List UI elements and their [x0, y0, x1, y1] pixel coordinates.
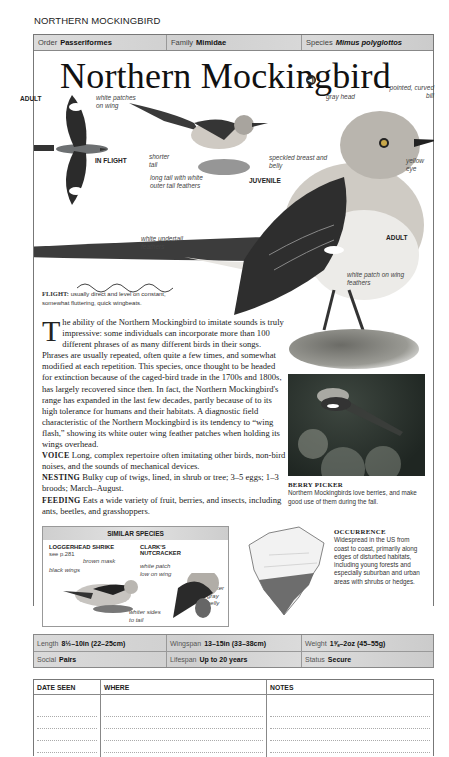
range-map	[239, 525, 334, 621]
speckled-label: speckled breast and belly	[269, 154, 329, 169]
yellow-eye-label: yellow eye	[406, 157, 436, 172]
lifespan-value: Up to 20 years	[199, 656, 247, 663]
pointed-bill-label: pointed, curved bill	[389, 84, 434, 99]
in-flight-illustration	[34, 95, 108, 205]
adult-label: ADULT	[386, 234, 408, 241]
running-head: NORTHERN MOCKINGBIRD	[34, 15, 160, 26]
white-patch-label: white patch on wing feathers	[347, 271, 407, 286]
shrike-name: LOGGERHEAD SHRIKE	[49, 544, 114, 550]
similar-species-box: SIMILAR SPECIES LOGGERHEAD SHRIKE see p.…	[42, 526, 229, 627]
gray-head-label: gray head	[326, 93, 355, 101]
lifespan-cell: LifespanUp to 20 years	[167, 652, 302, 667]
photo-caption: BERRY PICKERNorthern Mockingbirds love b…	[288, 481, 428, 506]
stats-bar: Length8½–10in (22–25cm) Wingspan13–15in …	[33, 634, 434, 668]
similar-species-illustrations	[53, 573, 223, 623]
flight-note: FLIGHT: usually direct and level on cons…	[42, 290, 182, 307]
species-value: Mimus polyglottos	[336, 38, 402, 47]
shrike-page-ref[interactable]: see p.281	[49, 551, 74, 557]
where-header: WHERE	[101, 680, 267, 694]
notes-column[interactable]	[267, 695, 433, 757]
shorter-tail-label: shorter tail	[149, 153, 179, 168]
species-account: OrderPasseriformes FamilyMimidae Species…	[33, 34, 434, 606]
order-value: Passeriformes	[60, 38, 112, 47]
berry-picker-photo	[288, 374, 425, 476]
date-seen-column[interactable]	[34, 695, 101, 757]
drop-cap: T	[42, 320, 60, 342]
where-column[interactable]	[101, 695, 267, 757]
family-cell: FamilyMimidae	[167, 35, 302, 50]
species-cell: SpeciesMimus polyglottos	[302, 35, 433, 50]
occurrence: OCCURRENCEWidespread in the US from coas…	[334, 528, 424, 586]
status-value: Secure	[328, 656, 351, 663]
taxonomy-bar: OrderPasseriformes FamilyMimidae Species…	[34, 35, 433, 51]
juvenile-label: JUVENILE	[249, 177, 281, 184]
social-cell: SocialPairs	[34, 652, 167, 667]
notes-header: NOTES	[267, 680, 433, 694]
nutcracker-name: CLARK'S NUTCRACKER	[140, 544, 180, 556]
wingspan-cell: Wingspan13–15in (33–38cm)	[167, 635, 302, 651]
social-value: Pairs	[59, 656, 76, 663]
description: The ability of the Northern Mockingbird …	[42, 317, 287, 517]
wingspan-value: 13–15in (33–38cm)	[204, 640, 266, 647]
status-cell: StatusSecure	[302, 652, 433, 667]
perch-rock	[289, 329, 419, 369]
order-cell: OrderPasseriformes	[34, 35, 167, 50]
weight-value: 1⅝–2oz (45–55g)	[330, 640, 386, 647]
long-tail-label: long tail with white outer tail feathers	[150, 174, 210, 189]
family-value: Mimidae	[196, 38, 226, 47]
in-flight-label: IN FLIGHT	[95, 157, 127, 164]
white-patches-label: white patches on wing	[96, 94, 136, 109]
weight-cell: Weight1⅝–2oz (45–55g)	[302, 635, 433, 651]
length-value: 8½–10in (22–25cm)	[61, 640, 125, 647]
audio-icon[interactable]: ◀)	[306, 75, 316, 85]
white-undertail-label: white undertail feathers	[141, 235, 201, 250]
date-seen-header: DATE SEEN	[34, 680, 101, 694]
length-cell: Length8½–10in (22–25cm)	[34, 635, 167, 651]
sighting-log: DATE SEEN WHERE NOTES	[33, 679, 434, 756]
similar-species-heading: SIMILAR SPECIES	[43, 527, 228, 540]
flight-adult-label: ADULT	[20, 95, 42, 102]
